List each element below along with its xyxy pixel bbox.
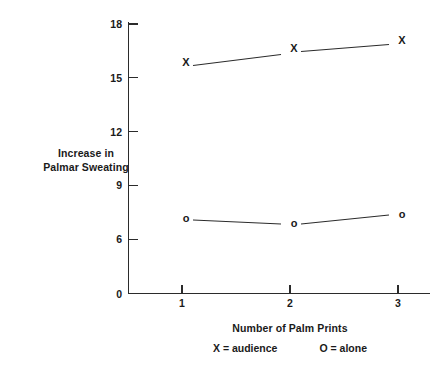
x-axis-title: Number of Palm Prints <box>175 322 405 334</box>
alone-marker-1: o <box>183 212 190 224</box>
x-tick-label-2: 2 <box>287 297 293 309</box>
y-tick-label-0: 0 <box>116 288 122 300</box>
legend: X = audience O = alone <box>160 342 420 354</box>
audience-marker-3: X <box>398 34 406 46</box>
x-tick-label-3: 3 <box>395 297 401 309</box>
y-axis-title-line-2: Palmar Sweating <box>36 160 136 174</box>
alone-marker-2: o <box>291 217 298 229</box>
y-tick-label-6: 6 <box>116 233 122 245</box>
legend-entry-alone: O = alone <box>319 342 367 354</box>
alone-segment-1-2 <box>193 220 281 224</box>
y-tick-label-12: 12 <box>110 126 122 138</box>
y-tick-label-18: 18 <box>110 18 122 30</box>
x-tick-label-1: 1 <box>179 297 185 309</box>
audience-marker-2: X <box>290 42 298 54</box>
y-axis-title: Increase in Palmar Sweating <box>36 146 136 174</box>
alone-marker-3: o <box>399 208 406 220</box>
alone-segment-2-3 <box>301 215 389 224</box>
audience-segment-1-2 <box>193 55 281 66</box>
y-axis-title-line-1: Increase in <box>36 146 136 160</box>
audience-segment-2-3 <box>301 45 389 52</box>
plot-area: 18 15 12 9 6 0 1 2 3 X X X o o o <box>0 0 437 368</box>
chart-container: 18 15 12 9 6 0 1 2 3 X X X o o o Increas… <box>0 0 437 368</box>
audience-marker-1: X <box>182 56 190 68</box>
legend-entry-audience: X = audience <box>213 342 278 354</box>
y-tick-label-9: 9 <box>116 179 122 191</box>
y-tick-label-15: 15 <box>110 72 122 84</box>
